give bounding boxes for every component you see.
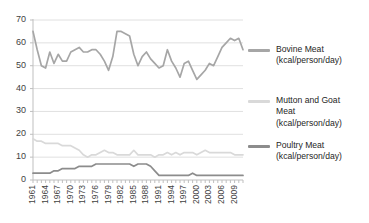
legend-label: Mutton and Goat Meat (kcal/person/day)	[276, 95, 342, 129]
x-tick-label: 1961	[28, 185, 37, 204]
plot-area: 010203040506070 196119641967197019731976…	[0, 0, 248, 223]
y-tick-label: 50	[4, 61, 26, 70]
x-tick-label: 2006	[217, 185, 226, 204]
x-tick-label: 1967	[53, 185, 62, 204]
x-tick-label: 2009	[230, 185, 239, 204]
x-tick-label: 2000	[192, 185, 201, 204]
gridlines	[33, 20, 243, 157]
y-tick-label: 40	[4, 84, 26, 93]
series-line-1	[33, 139, 243, 157]
y-tick-label: 30	[4, 106, 26, 115]
x-tick-label: 1988	[141, 185, 150, 204]
legend-label: Bovine Meat (kcal/person/day)	[276, 44, 342, 67]
x-tick-label: 1982	[116, 185, 125, 204]
x-tick-marks	[30, 20, 243, 183]
x-tick-label: 1997	[179, 185, 188, 204]
x-tick-label: 1976	[91, 185, 100, 204]
x-tick-label: 1991	[154, 185, 163, 204]
x-tick-label: 1973	[78, 185, 87, 204]
y-tick-label: 0	[4, 175, 26, 184]
x-tick-label: 2003	[204, 185, 213, 204]
x-tick-label: 1985	[129, 185, 138, 204]
chart-legend: Bovine Meat (kcal/person/day)Mutton and …	[248, 0, 369, 223]
series-line-0	[33, 31, 243, 79]
x-tick-label: 1970	[66, 185, 75, 204]
x-tick-label: 1964	[41, 185, 50, 204]
y-tick-label: 20	[4, 129, 26, 138]
chart-container: 010203040506070 196119641967197019731976…	[0, 0, 369, 223]
legend-item[interactable]: Bovine Meat (kcal/person/day)	[248, 44, 369, 67]
y-tick-label: 70	[4, 15, 26, 24]
legend-swatch-icon	[248, 100, 270, 103]
series-lines	[33, 31, 243, 175]
x-tick-label: 1979	[104, 185, 113, 204]
legend-item[interactable]: Poultry Meat (kcal/person/day)	[248, 140, 369, 163]
legend-item[interactable]: Mutton and Goat Meat (kcal/person/day)	[248, 95, 369, 129]
x-tick-label: 1994	[167, 185, 176, 204]
legend-swatch-icon	[248, 49, 270, 52]
legend-label: Poultry Meat (kcal/person/day)	[276, 140, 342, 163]
y-tick-label: 60	[4, 38, 26, 47]
legend-swatch-icon	[248, 145, 270, 148]
y-tick-label: 10	[4, 152, 26, 161]
series-line-2	[33, 164, 243, 175]
